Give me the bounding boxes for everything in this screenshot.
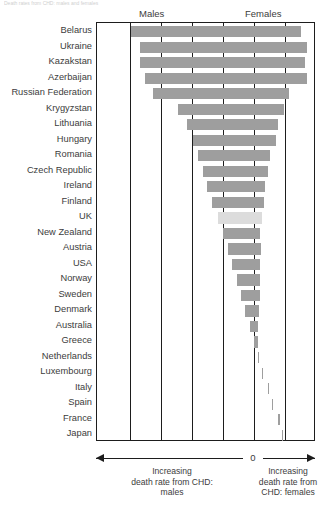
bar-finland[interactable]	[212, 197, 264, 208]
bottom-axis: 0	[96, 452, 315, 466]
column-header-females: Females	[245, 8, 281, 19]
plot-area	[96, 22, 315, 441]
bar-lithuania[interactable]	[187, 119, 278, 130]
bar-czech-republic[interactable]	[203, 166, 268, 177]
zero-tick-text: 0	[247, 452, 258, 463]
cropped-caption: Death rates from CHD: males and females	[4, 0, 154, 6]
bar-uk[interactable]	[218, 212, 262, 223]
bar-denmark[interactable]	[245, 305, 259, 316]
bar-norway[interactable]	[237, 274, 260, 285]
bar-rows	[97, 23, 314, 440]
bar-japan[interactable]	[282, 430, 284, 441]
bar-krygyzstan[interactable]	[178, 104, 285, 115]
bar-greece[interactable]	[254, 336, 258, 347]
right-axis-annotation: Increasing death rate from CHD: females	[250, 466, 326, 498]
column-header-males: Males	[139, 8, 164, 19]
bar-belarus[interactable]	[131, 26, 301, 37]
right-annotation-line-1: Increasing	[250, 466, 326, 477]
bar-romania[interactable]	[198, 150, 270, 161]
bar-usa[interactable]	[232, 259, 260, 270]
bar-australia[interactable]	[250, 321, 259, 332]
left-annotation-line-2: death rate from CHD:	[96, 477, 248, 488]
bar-ukraine[interactable]	[140, 42, 307, 53]
y-label-japan: Japan	[0, 425, 92, 442]
bar-sweden[interactable]	[241, 290, 260, 301]
bar-row[interactable]	[97, 426, 314, 443]
chart-figure: Death rates from CHD: males and females …	[0, 0, 326, 509]
y-axis-country-labels: BelarusUkraineKazakstanAzerbaijanRussian…	[0, 22, 92, 441]
bar-russian-federation[interactable]	[153, 88, 290, 99]
left-arrow-head	[96, 454, 104, 462]
left-arrow-line	[96, 458, 243, 459]
bar-kazakstan[interactable]	[140, 57, 305, 68]
left-annotation-line-3: males	[96, 487, 248, 498]
left-axis-annotation: Increasing death rate from CHD: males	[96, 466, 248, 498]
right-annotation-line-2: death rate from	[250, 477, 326, 488]
bar-luxembourg[interactable]	[262, 368, 264, 379]
bar-austria[interactable]	[228, 243, 261, 254]
bar-ireland[interactable]	[207, 181, 265, 192]
bar-new-zealand[interactable]	[223, 228, 261, 239]
bar-italy[interactable]	[268, 383, 270, 394]
bar-hungary[interactable]	[193, 135, 277, 146]
left-annotation-line-1: Increasing	[96, 466, 248, 477]
bar-spain[interactable]	[272, 399, 274, 410]
bar-netherlands[interactable]	[258, 352, 260, 363]
right-annotation-line-3: CHD: females	[250, 487, 326, 498]
bar-azerbaijan[interactable]	[145, 73, 308, 84]
zero-tick-label: 0	[223, 451, 283, 465]
right-arrow-head	[307, 454, 315, 462]
bar-france[interactable]	[278, 414, 280, 425]
